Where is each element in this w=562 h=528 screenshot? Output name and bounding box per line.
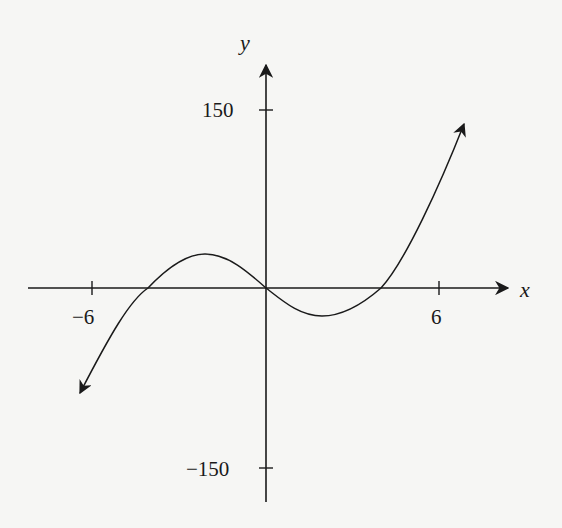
- y-tick-label-150: 150: [202, 98, 234, 122]
- y-axis-label: y: [238, 30, 250, 55]
- x-tick-label-6: 6: [431, 305, 442, 329]
- x-tick-label-neg6: −6: [72, 305, 94, 329]
- cubic-graph: −6 6 150 −150 x y: [0, 0, 562, 528]
- cubic-curve: [80, 124, 464, 393]
- y-tick-label-neg150: −150: [186, 457, 229, 481]
- chart-canvas: −6 6 150 −150 x y: [0, 0, 562, 528]
- x-axis-label: x: [519, 277, 530, 302]
